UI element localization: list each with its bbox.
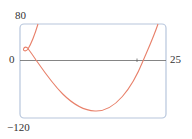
x-tick-label-right: 25: [170, 53, 181, 65]
y-tick-label-top: 80: [15, 9, 26, 21]
y-tick-label-bottom: −120: [7, 121, 30, 133]
curve: [23, 24, 158, 111]
plot-frame: [20, 24, 166, 118]
chart-plot: [0, 0, 192, 139]
y-tick-label-origin: 0: [9, 53, 15, 65]
